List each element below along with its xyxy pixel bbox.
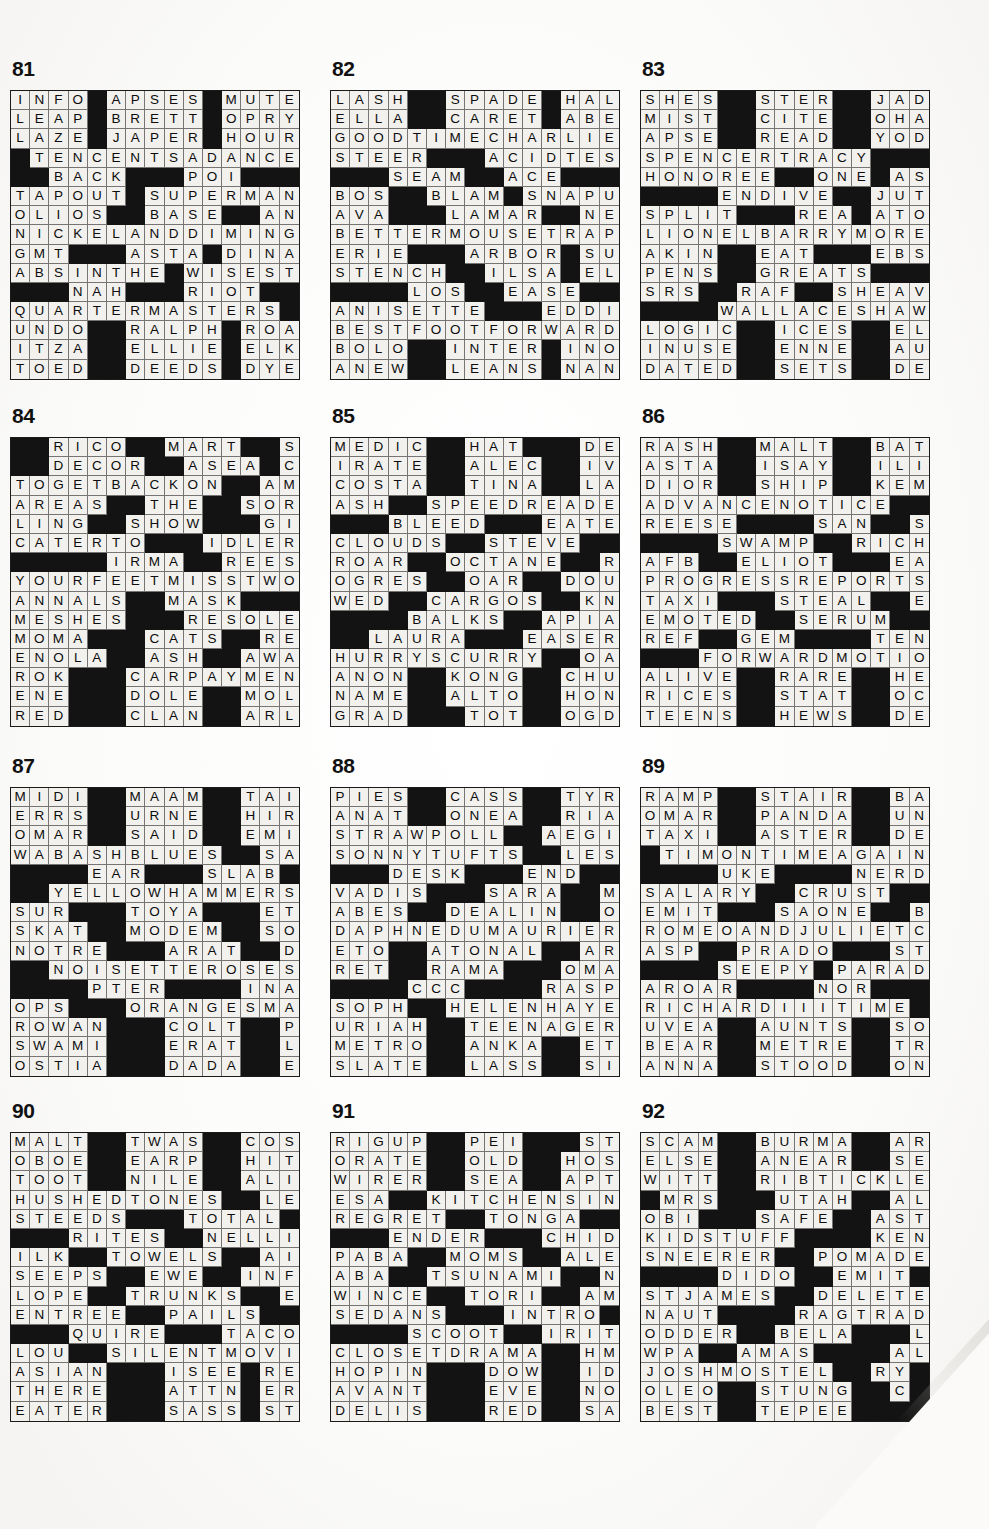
grid-block-cell <box>427 476 446 495</box>
grid-letter-cell: R <box>485 245 504 264</box>
grid-letter-cell: S <box>833 707 852 726</box>
grid-letter-cell: A <box>561 999 580 1018</box>
grid-block-cell <box>427 553 446 572</box>
grid-letter-cell: S <box>222 1287 241 1306</box>
grid-letter-cell: I <box>833 1171 852 1190</box>
grid-letter-cell: F <box>408 321 427 340</box>
grid-letter-cell: R <box>561 807 580 826</box>
grid-block-cell <box>69 687 88 706</box>
grid-letter-cell: M <box>222 1344 241 1363</box>
grid-letter-cell: S <box>775 903 794 922</box>
grid-letter-cell: R <box>260 1363 279 1382</box>
grid-letter-cell: C <box>542 1229 561 1248</box>
grid-letter-cell: L <box>600 264 619 283</box>
crossword-grid: SCAMBURMAARELSEANEARSEWITTRIBTICKLEMRSUT… <box>640 1132 930 1422</box>
grid-block-cell <box>107 1267 126 1286</box>
grid-block-cell <box>350 980 369 999</box>
grid-letter-cell: E <box>350 1037 369 1056</box>
grid-block-cell <box>737 707 756 726</box>
grid-letter-cell: A <box>833 807 852 826</box>
grid-letter-cell: S <box>756 476 775 495</box>
grid-block-cell <box>203 245 222 264</box>
grid-letter-cell: T <box>833 264 852 283</box>
grid-letter-cell: O <box>580 687 599 706</box>
grid-block-cell <box>890 980 909 999</box>
grid-letter-cell: T <box>890 1267 909 1286</box>
grid-letter-cell: V <box>660 1018 679 1037</box>
grid-block-cell <box>641 302 660 321</box>
grid-letter-cell: B <box>641 1037 660 1056</box>
grid-letter-cell: L <box>852 1287 871 1306</box>
grid-block-cell <box>871 1191 890 1210</box>
grid-letter-cell: I <box>126 1344 145 1363</box>
grid-letter-cell: D <box>756 999 775 1018</box>
grid-letter-cell: I <box>852 999 871 1018</box>
grid-letter-cell: U <box>241 91 260 110</box>
grid-block-cell <box>30 457 49 476</box>
grid-letter-cell: P <box>814 476 833 495</box>
grid-block-cell <box>165 283 184 302</box>
grid-letter-cell: I <box>542 1325 561 1344</box>
grid-letter-cell: O <box>165 515 184 534</box>
grid-letter-cell: M <box>241 687 260 706</box>
grid-block-cell <box>890 1325 909 1344</box>
grid-letter-cell: C <box>890 1382 909 1401</box>
grid-block-cell <box>833 91 852 110</box>
grid-letter-cell: M <box>718 1363 737 1382</box>
grid-letter-cell: W <box>641 1344 660 1363</box>
grid-block-cell <box>542 807 561 826</box>
grid-letter-cell: L <box>107 225 126 244</box>
grid-letter-cell: R <box>88 1402 107 1421</box>
grid-letter-cell: D <box>49 788 68 807</box>
grid-letter-cell: E <box>485 807 504 826</box>
grid-block-cell <box>718 630 737 649</box>
grid-letter-cell: S <box>890 1152 909 1171</box>
grid-letter-cell: T <box>679 1171 698 1190</box>
grid-block-cell <box>107 1171 126 1190</box>
grid-letter-cell: E <box>350 321 369 340</box>
grid-block-cell <box>126 206 145 225</box>
grid-letter-cell: V <box>679 496 698 515</box>
grid-letter-cell: E <box>795 360 814 379</box>
grid-letter-cell: M <box>11 1133 30 1152</box>
grid-block-cell <box>814 630 833 649</box>
grid-letter-cell: E <box>88 611 107 630</box>
grid-letter-cell: Y <box>260 360 279 379</box>
grid-letter-cell: E <box>280 611 299 630</box>
grid-letter-cell: S <box>699 340 718 359</box>
grid-block-cell <box>871 149 890 168</box>
grid-letter-cell: N <box>523 1306 542 1325</box>
grid-block-cell <box>718 788 737 807</box>
grid-letter-cell: C <box>241 1133 260 1152</box>
grid-letter-cell: O <box>446 1325 465 1344</box>
grid-block-cell <box>331 630 350 649</box>
grid-letter-cell: O <box>222 961 241 980</box>
grid-letter-cell: M <box>852 1248 871 1267</box>
grid-block-cell <box>890 592 909 611</box>
grid-block-cell <box>523 1248 542 1267</box>
grid-letter-cell: K <box>871 1171 890 1190</box>
grid-block-cell <box>88 245 107 264</box>
grid-letter-cell: S <box>523 592 542 611</box>
grid-letter-cell: S <box>775 592 794 611</box>
grid-block-cell <box>88 360 107 379</box>
grid-letter-cell: T <box>852 1306 871 1325</box>
grid-letter-cell: R <box>679 1191 698 1210</box>
grid-letter-cell: T <box>107 980 126 999</box>
grid-letter-cell: H <box>890 668 909 687</box>
grid-letter-cell: E <box>11 1402 30 1421</box>
grid-letter-cell: A <box>165 999 184 1018</box>
grid-letter-cell: P <box>165 1306 184 1325</box>
grid-letter-cell: S <box>580 1133 599 1152</box>
grid-letter-cell: A <box>280 649 299 668</box>
puzzle-number: 84 <box>12 405 300 427</box>
grid-letter-cell: D <box>203 149 222 168</box>
grid-letter-cell: N <box>833 168 852 187</box>
grid-letter-cell: S <box>756 1287 775 1306</box>
grid-letter-cell: G <box>504 668 523 687</box>
grid-block-cell <box>465 630 484 649</box>
grid-block-cell <box>69 707 88 726</box>
grid-letter-cell: S <box>203 572 222 591</box>
grid-letter-cell: A <box>660 826 679 845</box>
grid-letter-cell: I <box>699 826 718 845</box>
